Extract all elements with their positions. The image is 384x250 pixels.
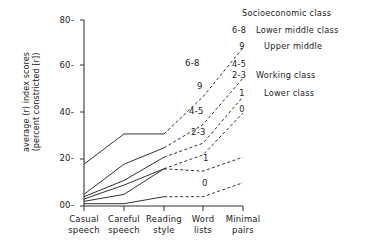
x-label-line-2: pairs [216, 225, 270, 236]
legend-row-1: 1 Lower class [232, 88, 382, 98]
legend-key-4-5: 4-5 [232, 59, 256, 69]
legend-row-9: 9 Upper middle [232, 41, 382, 51]
legend-row-4-5: 4-5 [232, 59, 382, 69]
legend: Socioeconomic class 6-8 Lower middle cla… [232, 8, 382, 120]
chart-container: average (r) index scores (percent constr… [0, 0, 384, 250]
legend-key-9: 9 [232, 41, 256, 51]
legend-desc-6-8: Lower middle class [256, 25, 339, 35]
legend-row-0: 0 [232, 104, 382, 114]
legend-key-2-3: 2-3 [232, 70, 256, 80]
legend-title: Socioeconomic class [242, 8, 382, 18]
legend-desc-2-3: Working class [256, 70, 316, 80]
series-tag-6-8: 6-8 [185, 58, 200, 68]
series-line-solid-6-8 [84, 134, 164, 164]
series-tag-4-5: 4-5 [189, 106, 204, 116]
series-tag-1: 1 [203, 153, 209, 163]
legend-desc-9: Upper middle [256, 41, 322, 51]
legend-desc-1: Lower class [256, 88, 314, 98]
legend-row-2-3: 2-3 Working class [232, 70, 382, 80]
series-tag-9: 9 [197, 81, 203, 91]
series-layer [84, 48, 243, 204]
series-tag-0: 0 [202, 178, 208, 188]
legend-key-6-8: 6-8 [232, 25, 256, 35]
legend-key-1: 1 [232, 88, 256, 98]
legend-key-0: 0 [232, 104, 256, 114]
legend-row-6-8: 6-8 Lower middle class [232, 25, 382, 35]
series-tag-2-3: 2-3 [191, 127, 206, 137]
x-label-line-1: Minimal [216, 214, 270, 225]
x-tick-label-minimal-pairs: Minimal pairs [216, 214, 270, 235]
series-line-solid-0 [84, 197, 164, 204]
